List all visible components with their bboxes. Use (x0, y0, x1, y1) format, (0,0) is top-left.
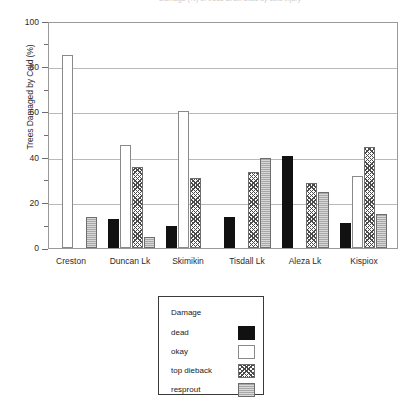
bar-group-kispiox (339, 23, 397, 248)
bar-skimikin-okay (178, 111, 189, 248)
bar-duncan-lk-okay (120, 145, 131, 249)
legend-label-okay: okay (171, 347, 188, 356)
legend-swatch-okay-icon (238, 345, 255, 359)
bar-tisdall-lk-dead (224, 217, 235, 249)
y-tick-label-20: 20 (0, 198, 39, 208)
chart-figure: Damage (%) of trees at six sites by cold… (0, 0, 409, 413)
x-tick-label-kispiox: Kispiox (329, 256, 399, 266)
bar-kispiox-top-dieback (364, 147, 375, 248)
plot-area (48, 22, 398, 249)
bar-kispiox-okay (352, 176, 363, 248)
bar-kispiox-dead (340, 223, 351, 248)
y-tick-label-0: 0 (0, 243, 39, 253)
bar-skimikin-top-dieback (190, 178, 201, 248)
legend-swatch-resprout-icon (238, 383, 255, 397)
legend-item-top-dieback: top dieback (171, 364, 255, 379)
y-tick-label-40: 40 (0, 153, 39, 163)
y-tick-major-0 (42, 249, 48, 250)
y-tick-label-100: 100 (0, 17, 39, 27)
bar-group-creston (49, 23, 107, 248)
bar-tisdall-lk-top-dieback (248, 172, 259, 249)
chart-legend: Damage dead okay top dieback resprout (158, 296, 264, 395)
bar-aleza-lk-dead (282, 156, 293, 248)
y-tick-label-80: 80 (0, 62, 39, 72)
legend-item-okay: okay (171, 345, 255, 360)
bar-creston-okay (62, 55, 73, 249)
legend-label-top-dieback: top dieback (171, 366, 212, 375)
bar-duncan-lk-top-dieback (132, 167, 143, 248)
legend-title: Damage (171, 308, 201, 317)
bar-duncan-lk-resprout (144, 237, 155, 248)
bar-skimikin-dead (166, 226, 177, 249)
bar-kispiox-resprout (376, 214, 387, 248)
bar-creston-resprout (86, 217, 97, 249)
chart-title: Damage (%) of trees at six sites by cold… (60, 0, 400, 3)
bar-tisdall-lk-resprout (260, 158, 271, 248)
legend-swatch-top-dieback-icon (238, 364, 255, 378)
y-tick-label-60: 60 (0, 107, 39, 117)
legend-item-resprout: resprout (171, 383, 255, 398)
legend-label-dead: dead (171, 328, 189, 337)
bar-aleza-lk-top-dieback (306, 183, 317, 248)
legend-item-dead: dead (171, 326, 255, 341)
bar-duncan-lk-dead (108, 219, 119, 248)
bar-group-aleza-lk (281, 23, 339, 248)
bar-group-skimikin (165, 23, 223, 248)
legend-label-resprout: resprout (171, 385, 200, 394)
bar-group-tisdall-lk (223, 23, 281, 248)
legend-swatch-dead-icon (238, 326, 255, 340)
bar-aleza-lk-resprout (318, 192, 329, 248)
bar-group-duncan-lk (107, 23, 165, 248)
